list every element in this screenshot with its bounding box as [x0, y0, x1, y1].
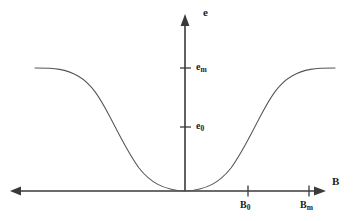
x-tick-label-Bm: Bm — [300, 200, 313, 210]
y-tick-label-e0: e0 — [196, 121, 204, 131]
x-axis-right-arrow-icon — [314, 187, 326, 196]
y-axis-top-arrow-icon — [181, 14, 190, 26]
y-tick-label-e0-subscript: 0 — [200, 124, 204, 133]
x-tick-label-B0: B0 — [240, 200, 250, 210]
y-axis-label: e — [203, 7, 208, 18]
x-axis-left-arrow-icon — [10, 187, 21, 196]
y-tick-label-em-subscript: m — [200, 65, 206, 74]
x-axis-label: B — [332, 176, 339, 187]
x-tick-label-B0-base: B — [240, 199, 247, 210]
plot-svg — [0, 0, 360, 221]
figure-container: e B em e0 B0 Bm — [0, 0, 360, 221]
x-tick-label-B0-subscript: 0 — [247, 203, 251, 212]
x-tick-label-Bm-subscript: m — [307, 203, 313, 212]
x-tick-label-Bm-base: B — [300, 199, 307, 210]
y-tick-label-em: em — [196, 62, 207, 72]
